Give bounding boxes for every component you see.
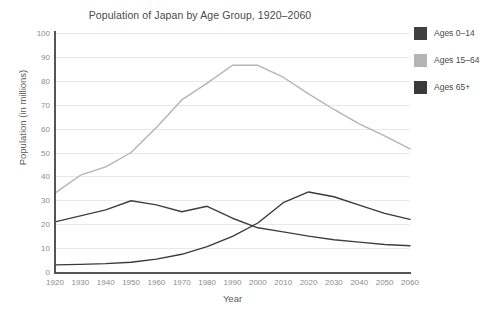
series-line (55, 192, 410, 265)
chart-legend: Ages 0–14Ages 15–64Ages 65+ (414, 22, 498, 103)
x-axis-ticks: 1920193019401950196019701980199020002010… (55, 278, 410, 292)
legend-item-label: Ages 0–14 (434, 28, 475, 38)
legend-item-label: Ages 65+ (434, 82, 470, 92)
series-lines (55, 33, 410, 272)
y-tick-label: 30 (20, 196, 50, 205)
x-tick-label: 2060 (390, 278, 430, 287)
legend-color-swatch (414, 81, 427, 94)
x-axis-label: Year (55, 293, 410, 304)
y-tick-label: 20 (20, 220, 50, 229)
series-line (55, 201, 410, 246)
legend-item-label: Ages 15–64 (434, 55, 479, 65)
y-tick-label: 100 (20, 29, 50, 38)
plot-area (55, 33, 410, 272)
legend-color-swatch (414, 54, 427, 67)
y-axis-label: Population (in millions) (17, 48, 28, 188)
chart-title: Population of Japan by Age Group, 1920–2… (0, 9, 400, 21)
x-axis-line (54, 272, 411, 274)
legend-item[interactable]: Ages 65+ (414, 76, 498, 98)
legend-item[interactable]: Ages 15–64 (414, 49, 498, 71)
series-line (55, 65, 410, 193)
y-axis-line (54, 31, 56, 274)
legend-item[interactable]: Ages 0–14 (414, 22, 498, 44)
y-tick-label: 10 (20, 244, 50, 253)
y-tick-label: 0 (20, 268, 50, 277)
population-line-chart: Population of Japan by Age Group, 1920–2… (0, 0, 501, 318)
legend-color-swatch (414, 27, 427, 40)
